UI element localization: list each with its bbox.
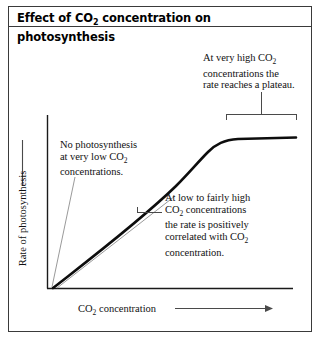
- annotation-plateau: At very high CO2 concentrations the rate…: [203, 52, 308, 91]
- annotation-no-photosynthesis-line1: No photosynthesis: [60, 139, 137, 150]
- y-axis-label: Rate of photosynthesis: [17, 159, 28, 279]
- annotation-linear-line4: correlated with CO: [165, 231, 245, 242]
- no-photosynthesis-leader: [52, 177, 75, 287]
- annotation-linear-line2: CO: [165, 204, 180, 215]
- annotation-linear-region: At low to fairly high CO2 concentrations…: [165, 192, 287, 258]
- annotation-linear-line5: concentration.: [165, 247, 224, 258]
- annotation-linear-subscript-2: 2: [245, 236, 249, 245]
- annotation-no-photosynthesis-line2: at very low CO: [60, 151, 124, 162]
- annotation-no-photosynthesis-subscript: 2: [124, 156, 128, 165]
- guide-line: [57, 196, 175, 288]
- annotation-linear-line1: At low to fairly high: [165, 192, 250, 203]
- annotation-linear-subscript-1: 2: [180, 209, 184, 218]
- x-axis-label-pre: CO: [78, 303, 93, 314]
- annotation-plateau-subscript: 2: [273, 57, 277, 66]
- annotation-no-photosynthesis-line3: concentrations.: [60, 166, 123, 177]
- x-axis-label-post: concentration: [96, 303, 156, 314]
- x-label-arrow-head: [265, 305, 273, 312]
- annotation-no-photosynthesis: No photosynthesis at very low CO2 concen…: [60, 139, 164, 178]
- annotation-linear-line3: the rate is positively: [165, 219, 249, 230]
- annotation-plateau-line3: rate reaches a plateau.: [203, 79, 295, 90]
- x-axis-label: CO2 concentration: [78, 303, 156, 317]
- annotation-plateau-line2: concentrations the: [203, 68, 279, 79]
- annotation-plateau-line1: At very high CO: [203, 52, 273, 63]
